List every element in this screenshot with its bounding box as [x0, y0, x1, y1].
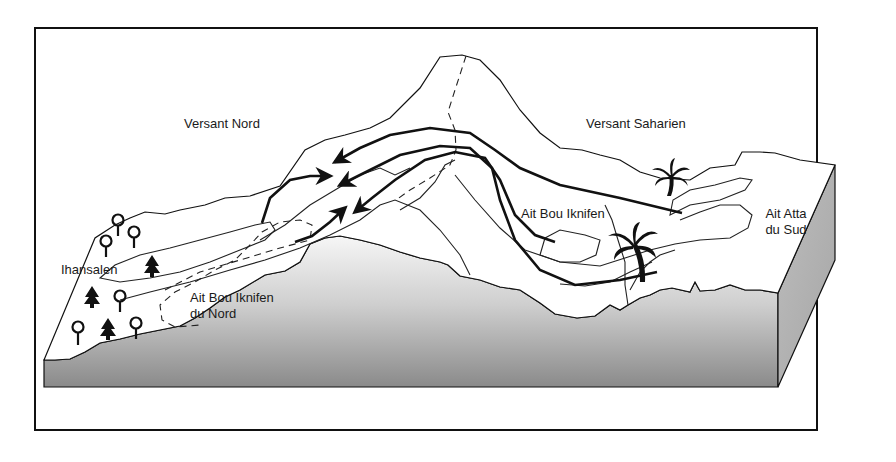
- label-ait-bou-iknifen-nord-line2: du Nord: [190, 306, 274, 322]
- label-versant-saharien: Versant Saharien: [586, 116, 686, 132]
- label-ait-atta-du-sud: Ait Atta du Sud: [758, 206, 814, 238]
- label-ait-atta-line1: Ait Atta: [758, 206, 814, 222]
- label-ait-bou-iknifen: Ait Bou Iknifen: [521, 206, 605, 222]
- label-ait-bou-iknifen-du-nord: Ait Bou Iknifen du Nord: [190, 290, 274, 322]
- label-versant-nord: Versant Nord: [184, 116, 260, 132]
- label-ait-atta-line2: du Sud: [758, 222, 814, 238]
- label-ihansalen: Ihansalen: [61, 262, 117, 278]
- label-ait-bou-iknifen-nord-line1: Ait Bou Iknifen: [190, 290, 274, 306]
